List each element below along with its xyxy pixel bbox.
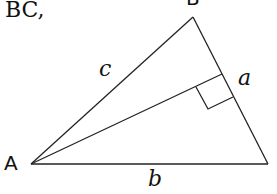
side-c-line xyxy=(31,17,193,164)
side-label-c: c xyxy=(99,56,111,81)
header-text: BC, xyxy=(5,0,45,22)
right-angle-marker xyxy=(196,87,233,109)
altitude-line xyxy=(31,74,222,164)
side-a-line xyxy=(193,17,268,164)
triangle-figure xyxy=(0,0,277,194)
triangle-diagram: BC, B A c a b xyxy=(0,0,277,194)
side-label-b: b xyxy=(148,166,162,191)
vertex-label-b: B xyxy=(186,0,200,10)
vertex-label-a: A xyxy=(4,151,18,175)
side-label-a: a xyxy=(238,65,251,90)
